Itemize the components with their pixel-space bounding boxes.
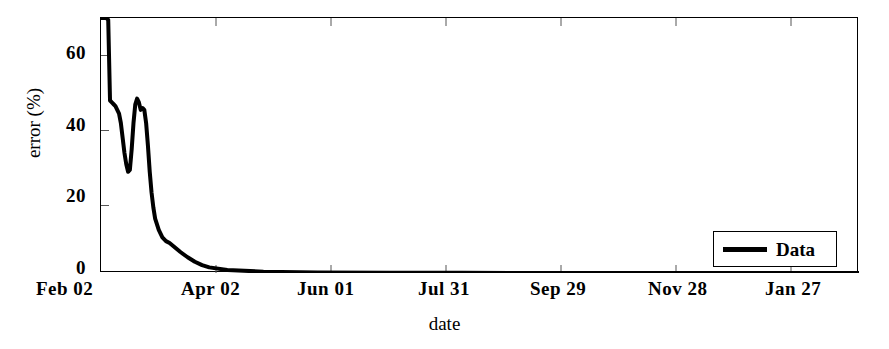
y-tick-label-0: 0 (40, 258, 86, 277)
legend-line-swatch (723, 247, 767, 252)
plot-area: Data (100, 17, 858, 272)
x-tick-label-feb-02: Feb 02 (36, 278, 93, 300)
x-tick-label-apr-02: Apr 02 (181, 278, 240, 300)
x-tick-label-nov-28: Nov 28 (648, 278, 707, 300)
y-tick-label-20: 20 (40, 186, 86, 205)
x-tick-label-jul-31: Jul 31 (418, 278, 470, 300)
x-axis-ticks (216, 18, 791, 273)
x-tick-label-jan-27: Jan 27 (765, 278, 821, 300)
x-axis-tick-labels: Feb 02 Apr 02 Jun 01 Jul 31 Sep 29 Nov 2… (0, 278, 889, 304)
x-tick-label-jun-01: Jun 01 (297, 278, 354, 300)
legend-label-data: Data (776, 240, 815, 259)
y-axis-title: error (%) (23, 43, 45, 203)
chart-figure: 60 40 20 0 error (%) (0, 0, 889, 349)
legend[interactable]: Data (713, 231, 837, 267)
x-axis-title: date (0, 313, 889, 335)
y-tick-label-60: 60 (40, 43, 86, 62)
x-tick-label-sep-29: Sep 29 (530, 278, 586, 300)
y-tick-label-40: 40 (40, 115, 86, 134)
